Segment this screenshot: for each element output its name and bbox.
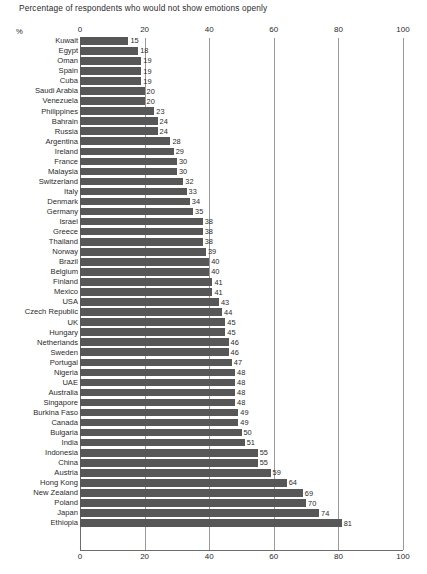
category-label: Argentina	[45, 137, 78, 146]
category-label: USA	[62, 297, 78, 306]
bar-value-label: 30	[179, 157, 187, 166]
bar	[80, 218, 203, 226]
bar-value-label: 34	[192, 197, 200, 206]
bar-value-label: 24	[160, 117, 168, 126]
bar	[80, 318, 225, 326]
category-label: Norway	[52, 247, 78, 256]
category-label: Austria	[54, 468, 78, 477]
bar-row: Argentina28	[0, 136, 427, 146]
bar-value-label: 32	[185, 177, 193, 186]
bar	[80, 499, 306, 507]
bar-value-label: 49	[240, 408, 248, 417]
bar	[80, 57, 141, 65]
bar-value-label: 55	[260, 458, 268, 467]
bar-row: Canada49	[0, 418, 427, 428]
bar-value-label: 18	[140, 46, 148, 55]
category-label: UK	[67, 318, 78, 327]
bar-row: Indonesia55	[0, 448, 427, 458]
bar	[80, 238, 203, 246]
bar-value-label: 24	[160, 127, 168, 136]
bar-value-label: 59	[273, 468, 281, 477]
bar	[80, 399, 235, 407]
bar-value-label: 45	[227, 328, 235, 337]
bar-row: Kuwait15	[0, 36, 427, 46]
bar-value-label: 41	[214, 278, 222, 287]
category-label: Hungary	[49, 328, 78, 337]
bar	[80, 519, 342, 527]
category-label: Malaysia	[48, 167, 78, 176]
bar-row: Thailand38	[0, 237, 427, 247]
bar	[80, 359, 232, 367]
bar-row: Hungary45	[0, 327, 427, 337]
bar	[80, 328, 225, 336]
bar-row: Spain19	[0, 66, 427, 76]
x-tick-bottom-40: 40	[205, 552, 214, 561]
bar	[80, 459, 258, 467]
bar-value-label: 19	[143, 67, 151, 76]
bar	[80, 158, 177, 166]
category-label: Brazil	[59, 257, 78, 266]
bar	[80, 479, 287, 487]
category-label: Mexico	[54, 287, 78, 296]
x-tick-top-60: 60	[269, 25, 278, 34]
bar-value-label: 47	[234, 358, 242, 367]
bar	[80, 258, 209, 266]
bar-row: Philippines23	[0, 106, 427, 116]
bar-row: France30	[0, 157, 427, 167]
bar	[80, 178, 183, 186]
x-tick-bottom-60: 60	[269, 552, 278, 561]
x-tick-bottom-0: 0	[78, 552, 82, 561]
axis-baseline	[80, 550, 403, 551]
bar-value-label: 38	[205, 237, 213, 246]
bar-value-label: 55	[260, 448, 268, 457]
bar-value-label: 40	[211, 257, 219, 266]
bar-row: Switzerland32	[0, 177, 427, 187]
bar	[80, 379, 235, 387]
bar-value-label: 48	[237, 388, 245, 397]
bar	[80, 168, 177, 176]
category-label: Cuba	[60, 76, 78, 85]
category-label: Singapore	[43, 398, 78, 407]
bar	[80, 107, 154, 115]
bar	[80, 509, 319, 517]
bar-row: Israel38	[0, 217, 427, 227]
category-label: Israel	[59, 217, 78, 226]
bar	[80, 47, 138, 55]
bar-row: Ethiopia81	[0, 518, 427, 528]
x-tick-bottom-80: 80	[334, 552, 343, 561]
category-label: Kuwait	[55, 36, 78, 45]
bar	[80, 188, 187, 196]
category-label: Philippines	[41, 107, 78, 116]
category-label: Switzerland	[39, 177, 78, 186]
bar-value-label: 19	[143, 56, 151, 65]
bar	[80, 87, 145, 95]
bar	[80, 348, 229, 356]
bar	[80, 198, 190, 206]
bar-row: Czech Republic44	[0, 307, 427, 317]
bar	[80, 419, 238, 427]
category-label: Ireland	[55, 147, 78, 156]
bar-value-label: 29	[176, 147, 184, 156]
bar	[80, 67, 141, 75]
bar-row: Nigeria48	[0, 368, 427, 378]
bar-value-label: 28	[172, 137, 180, 146]
bar-row: Malaysia30	[0, 167, 427, 177]
bar-rows: Kuwait15Egypt18Oman19Spain19Cuba19Saudi …	[0, 36, 427, 528]
bar-value-label: 33	[189, 187, 197, 196]
bar-row: Poland70	[0, 498, 427, 508]
bar-row: Burkina Faso49	[0, 408, 427, 418]
bar	[80, 77, 141, 85]
bar	[80, 228, 203, 236]
category-label: Canada	[51, 418, 78, 427]
category-label: Netherlands	[37, 338, 78, 347]
bar-value-label: 64	[289, 478, 297, 487]
bar	[80, 439, 245, 447]
bar	[80, 338, 229, 346]
category-label: Finland	[53, 277, 78, 286]
bar-row: USA43	[0, 297, 427, 307]
bar-value-label: 43	[221, 298, 229, 307]
category-label: Belgium	[51, 267, 78, 276]
category-label: Ethiopia	[51, 518, 78, 527]
category-label: Poland	[54, 498, 78, 507]
bar-value-label: 50	[244, 428, 252, 437]
